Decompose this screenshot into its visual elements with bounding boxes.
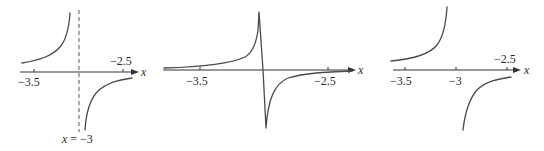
tick-label-neg-3: −3 <box>449 74 462 88</box>
tick-label-neg-3-5: −3.5 <box>390 74 412 88</box>
tick-label-neg-2-5: −2.5 <box>314 74 336 88</box>
tick-label-neg-3-5: −3.5 <box>186 74 208 88</box>
x-axis-arrowhead-icon <box>513 67 521 73</box>
tick-label-neg-2-5: −2.5 <box>110 54 132 68</box>
asymptote-label: x = −3 <box>61 132 93 146</box>
right-branch-curve <box>85 78 132 130</box>
right-branch-curve <box>463 77 511 130</box>
panel-3: x −3.5 −3 −2.5 <box>390 7 530 130</box>
left-branch-curve <box>22 13 70 63</box>
x-axis-label: x <box>140 65 147 79</box>
rational-function-graphs-figure: x −3.5 −2.5 x = −3 x −3.5 −2.5 x −3. <box>0 0 544 151</box>
tick-label-neg-3-5: −3.5 <box>18 75 40 89</box>
x-axis-arrowhead-icon <box>131 69 139 75</box>
x-axis-label: x <box>523 63 530 77</box>
tick-label-neg-2-5: −2.5 <box>494 52 516 66</box>
left-branch-curve <box>391 7 447 61</box>
x-axis-arrowhead-icon <box>348 67 356 73</box>
x-axis-label: x <box>357 63 364 77</box>
panel-1: x −3.5 −2.5 x = −3 <box>18 10 147 146</box>
panel-2: x −3.5 −2.5 <box>163 12 364 128</box>
